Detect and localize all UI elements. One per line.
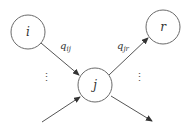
node-i: i	[11, 15, 45, 49]
edge-label-qij: qij	[60, 40, 72, 53]
edge-incoming-to-j	[42, 97, 80, 122]
ellipsis-right: ⋮	[134, 71, 145, 84]
node-r: r	[146, 10, 180, 44]
transition-diagram: i j r qij qjr ⋮ ⋮	[0, 0, 190, 129]
edge-j-to-r	[109, 38, 148, 75]
edge-j-outgoing	[111, 96, 152, 121]
edge-label-qij-sub: ij	[66, 45, 71, 53]
edge-label-qjr-sub: jr	[121, 45, 129, 53]
node-i-label: i	[26, 25, 30, 39]
ellipsis-left: ⋮	[41, 71, 52, 84]
node-j: j	[78, 68, 112, 102]
edge-label-qjr: qjr	[117, 40, 130, 53]
